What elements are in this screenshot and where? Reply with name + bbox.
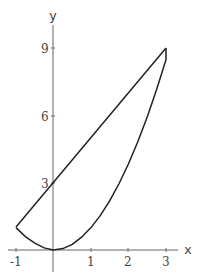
x-tick-label: 3 [162, 255, 170, 269]
y-axis-label: y [49, 8, 57, 23]
y-tick-label: 9 [41, 42, 49, 56]
x-tick-label: 2 [124, 255, 132, 269]
plot-canvas: -1 1 2 3 3 6 9 x y [0, 0, 201, 280]
x-tick-label: -1 [10, 255, 22, 269]
y-tick-label: 6 [41, 110, 49, 124]
x-tick-label: 1 [87, 255, 95, 269]
series-line [16, 48, 166, 227]
x-axis-label: x [184, 242, 192, 257]
series-parabola [16, 48, 166, 250]
